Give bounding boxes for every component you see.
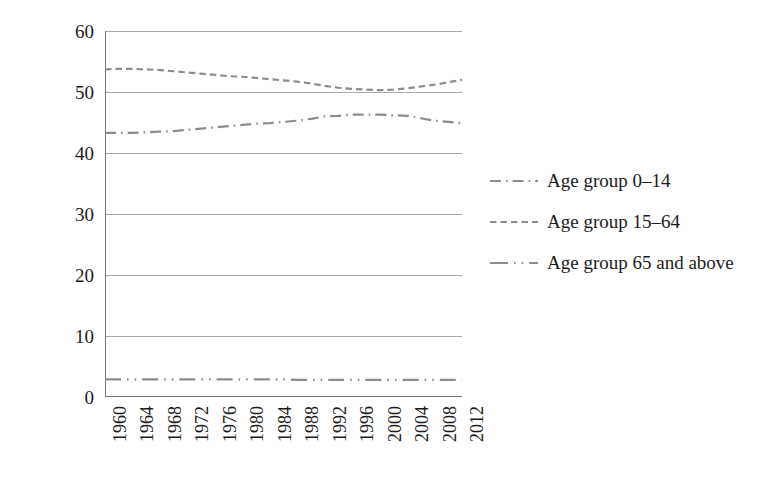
x-tick-label: 1960 bbox=[111, 406, 129, 466]
chart-figure: Age groups (%) 60 50 40 30 20 10 0 19601… bbox=[0, 0, 771, 488]
x-axis-tick-labels: 1960196419681972197619801984198819921996… bbox=[105, 404, 462, 488]
x-tick-label: 1968 bbox=[166, 406, 184, 466]
legend-item-age-65-above: Age group 65 and above bbox=[490, 242, 765, 283]
x-tick-label: 1964 bbox=[138, 406, 156, 466]
y-tick-label: 60 bbox=[50, 22, 94, 41]
x-tick-label: 1996 bbox=[358, 406, 376, 466]
y-tick-label: 30 bbox=[50, 205, 94, 224]
x-tick-label: 1980 bbox=[248, 406, 266, 466]
dashed-key-icon bbox=[490, 215, 538, 229]
x-tick-label: 1992 bbox=[331, 406, 349, 466]
y-tick-label: 40 bbox=[50, 144, 94, 163]
x-tick-label: 1976 bbox=[221, 406, 239, 466]
x-tick-label: 1984 bbox=[276, 406, 294, 466]
x-tick-label: 1988 bbox=[303, 406, 321, 466]
data-series-lines bbox=[105, 69, 462, 380]
legend-label: Age group 15–64 bbox=[547, 212, 680, 231]
legend-label: Age group 65 and above bbox=[547, 253, 734, 272]
legend-item-age-0-14: Age group 0–14 bbox=[490, 160, 765, 201]
plot-svg bbox=[105, 31, 462, 397]
dash-dot-dot-key-icon bbox=[490, 256, 538, 270]
chart-legend: Age group 0–14 Age group 15–64 Age group… bbox=[490, 160, 765, 283]
legend-item-age-15-64: Age group 15–64 bbox=[490, 201, 765, 242]
y-axis-tick-labels: 60 50 40 30 20 10 0 bbox=[50, 0, 94, 488]
x-tick-label: 2004 bbox=[413, 406, 431, 466]
x-tick-label: 2012 bbox=[468, 406, 486, 466]
y-tick-label: 20 bbox=[50, 266, 94, 285]
y-tick-label: 50 bbox=[50, 83, 94, 102]
plot-area bbox=[105, 31, 462, 397]
gridlines bbox=[105, 32, 462, 398]
legend-label: Age group 0–14 bbox=[547, 171, 670, 190]
x-tick-label: 1972 bbox=[193, 406, 211, 466]
x-tick-label: 2008 bbox=[441, 406, 459, 466]
y-tick-label: 0 bbox=[50, 388, 94, 407]
y-tick-label: 10 bbox=[50, 327, 94, 346]
dash-dot-key-icon bbox=[490, 174, 538, 188]
x-tick-label: 2000 bbox=[386, 406, 404, 466]
